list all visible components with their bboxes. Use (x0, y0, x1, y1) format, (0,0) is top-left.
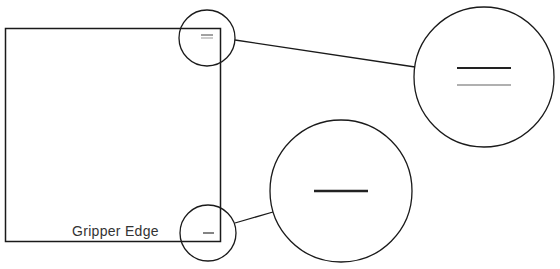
top-magnified-circle (414, 7, 554, 147)
top-connector-line (235, 40, 415, 67)
gripper-edge-label: Gripper Edge (72, 223, 159, 239)
sheet-outline (6, 29, 221, 242)
bottom-connector-line (235, 212, 273, 223)
